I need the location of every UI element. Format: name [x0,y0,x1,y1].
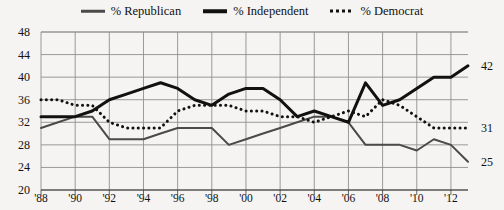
end-label-republican: 25 [481,156,493,168]
x-axis-tick-label: '96 [161,193,195,205]
y-axis-tick-label: 36 [4,94,30,106]
party-affiliation-line-chart: % Republican % Independent % Democrat 20… [0,0,504,210]
x-axis-tick-label: '88 [24,193,58,205]
x-axis-tick-label: '06 [331,193,365,205]
x-axis-tick-label: '02 [263,193,297,205]
end-label-independent: 42 [481,60,493,72]
plot-area: 2024283236404448 '88'90'92'94'96'98'00'0… [0,0,504,210]
series-line-republican [41,117,468,162]
x-axis-tick-label: '92 [92,193,126,205]
y-axis-tick-label: 28 [4,139,30,151]
x-axis-tick-label: '94 [126,193,160,205]
x-axis-tick-label: '10 [400,193,434,205]
series-line-independent [41,66,468,122]
x-axis-tick-label: '04 [297,193,331,205]
x-axis-tick-label: '98 [195,193,229,205]
x-axis-tick-label: '08 [366,193,400,205]
end-label-democrat: 31 [481,122,493,134]
x-axis-tick-label: '00 [229,193,263,205]
y-axis-tick-label: 40 [4,71,30,83]
x-axis-tick-label: '90 [58,193,92,205]
x-axis-tick-label: '12 [434,193,468,205]
y-axis-tick-label: 48 [4,26,30,38]
y-axis-tick-label: 24 [4,161,30,173]
y-axis-tick-label: 44 [4,49,30,61]
plot-svg [0,0,504,210]
y-axis-tick-label: 32 [4,116,30,128]
